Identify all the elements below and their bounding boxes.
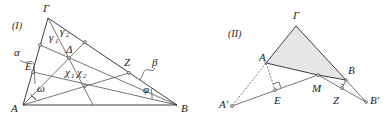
point-B xyxy=(345,79,347,81)
point-Delta xyxy=(68,57,71,60)
label-Bprime: B′ xyxy=(370,94,380,106)
label-chi2-sub: 2 xyxy=(83,72,87,80)
label-B: B xyxy=(348,64,355,76)
label-B: B xyxy=(181,102,188,114)
point-Z xyxy=(128,72,131,75)
label-M: M xyxy=(311,82,322,94)
label-gamma2: γ xyxy=(60,25,65,37)
diagram-1: (I) Γ A B E Δ Z α β ω φ γ 1 γ 2 χ 1 χ 2 xyxy=(10,2,188,114)
label-Z: Z xyxy=(124,56,131,68)
label-E: E xyxy=(273,94,281,106)
diagram-2-tag: (II) xyxy=(228,28,242,40)
diagram-2: (II) Γ A B A′ B′ E M Z xyxy=(218,9,380,110)
point-Z xyxy=(341,87,344,90)
point-intersection xyxy=(84,85,87,88)
label-Z: Z xyxy=(333,94,340,106)
label-E: E xyxy=(24,60,32,72)
diagram-1-tag: (I) xyxy=(12,20,23,32)
point-on-AGamma xyxy=(39,44,42,47)
geometry-figure: (I) Γ A B E Δ Z α β ω φ γ 1 γ 2 χ 1 χ 2 xyxy=(0,0,390,123)
point-M xyxy=(317,74,320,77)
label-chi1-sub: 1 xyxy=(71,72,75,80)
point-Aprime xyxy=(231,105,234,108)
label-A: A xyxy=(258,51,266,63)
label-gamma1-sub: 1 xyxy=(55,37,59,45)
point-on-GammaB xyxy=(84,41,87,44)
point-E xyxy=(32,71,35,74)
label-Gamma: Γ xyxy=(292,9,300,21)
label-alpha: α xyxy=(14,46,20,58)
point-E xyxy=(274,89,277,92)
line-B-upper xyxy=(40,45,177,105)
label-beta: β xyxy=(151,56,158,68)
label-chi2: χ xyxy=(76,66,83,78)
label-gamma1: γ xyxy=(49,31,54,43)
label-Delta: Δ xyxy=(65,43,72,55)
extension-B-Bprime xyxy=(346,80,366,102)
label-Gamma: Γ xyxy=(42,2,50,14)
label-A: A xyxy=(10,102,18,114)
line-B-E xyxy=(33,72,177,105)
beta-pointer xyxy=(140,68,155,80)
cevian-gamma xyxy=(48,18,93,105)
perp-AE xyxy=(266,63,275,90)
label-Aprime: A′ xyxy=(218,98,229,110)
label-chi1: χ xyxy=(64,66,71,78)
label-gamma2-sub: 2 xyxy=(66,31,70,39)
point-Bprime xyxy=(365,101,368,104)
label-phi: φ xyxy=(143,83,149,95)
label-omega: ω xyxy=(37,82,45,94)
